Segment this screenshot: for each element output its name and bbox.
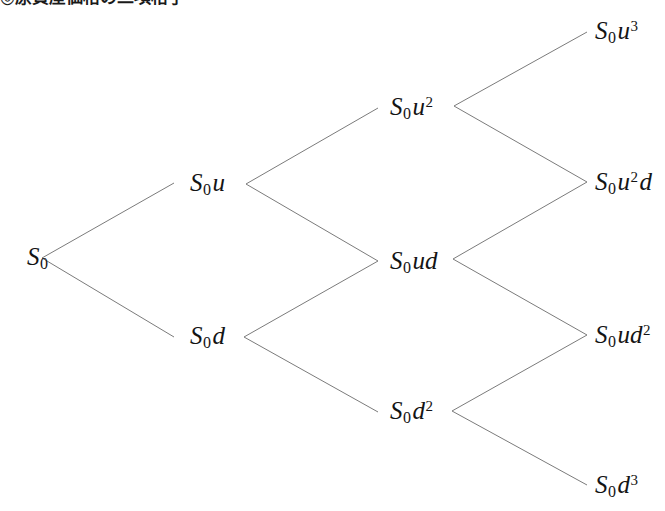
node-base-symbol: S <box>390 247 403 274</box>
lattice-edge-n1d-n2dd <box>244 337 378 412</box>
lattice-node-n0: S0 <box>27 244 48 272</box>
lattice-node-n1u: S0u <box>190 170 225 198</box>
lattice-node-n3uud: S0u2d <box>595 169 652 197</box>
lattice-edge-n0-n1u <box>42 183 174 258</box>
node-base-symbol: S <box>595 471 608 498</box>
node-factor: u <box>411 93 425 120</box>
lattice-node-n2ud: S0ud <box>390 248 438 276</box>
node-factor-tail: d <box>638 168 652 195</box>
lattice-edge-n2ud-n3uud <box>453 182 587 259</box>
node-exponent: 3 <box>630 18 638 34</box>
lattice-node-n3ddd: S0d3 <box>595 472 638 500</box>
node-subscript: 0 <box>608 180 617 197</box>
node-factor: d <box>211 322 225 349</box>
lattice-edge-n2uu-n3uuu <box>454 32 587 106</box>
node-subscript: 0 <box>403 259 412 276</box>
lattice-edge-n2dd-n3udd <box>452 335 587 411</box>
node-subscript: 0 <box>203 181 212 198</box>
node-subscript: 0 <box>403 409 412 426</box>
node-factor: ud <box>411 247 438 274</box>
node-subscript: 0 <box>608 483 617 500</box>
node-base-symbol: S <box>595 321 608 348</box>
node-subscript: 0 <box>203 334 212 351</box>
node-base-symbol: S <box>390 397 403 424</box>
lattice-node-n2uu: S0u2 <box>390 94 433 122</box>
lattice-node-n3udd: S0ud2 <box>595 322 651 350</box>
node-exponent: 2 <box>630 169 638 185</box>
node-exponent: 3 <box>630 472 638 488</box>
lattice-edge-n1u-n2ud <box>246 184 378 261</box>
node-exponent: 2 <box>425 94 433 110</box>
lattice-node-n3uuu: S0u3 <box>595 18 638 46</box>
node-subscript: 0 <box>608 333 617 350</box>
lattice-node-n1d: S0d <box>190 323 225 351</box>
node-subscript: 0 <box>608 29 617 46</box>
lattice-diagram-page: ◎原資産価格の二項格子 S0S0uS0dS0u2S0udS0d2S0u3S0u2… <box>0 0 665 511</box>
node-base-symbol: S <box>595 168 608 195</box>
lattice-edge-n2dd-n3ddd <box>452 411 587 485</box>
node-factor: u <box>211 169 225 196</box>
node-base-symbol: S <box>595 17 608 44</box>
lattice-edge-n0-n1d <box>42 258 174 337</box>
node-factor: d <box>616 471 630 498</box>
lattice-edge-n1u-n2uu <box>246 108 378 184</box>
node-factor: ud <box>616 321 643 348</box>
lattice-edge-n1d-n2ud <box>244 261 378 337</box>
node-exponent: 2 <box>425 398 433 414</box>
node-base-symbol: S <box>390 93 403 120</box>
node-base-symbol: S <box>190 169 203 196</box>
lattice-edge-n2uu-n3uud <box>454 106 587 182</box>
node-subscript: 0 <box>403 105 412 122</box>
node-subscript: 0 <box>40 255 49 272</box>
lattice-edge-layer <box>0 0 665 511</box>
node-factor: u <box>616 17 630 44</box>
lattice-edge-n2ud-n3udd <box>453 259 587 335</box>
node-factor: d <box>411 397 425 424</box>
node-base-symbol: S <box>190 322 203 349</box>
node-exponent: 2 <box>643 322 651 338</box>
lattice-node-n2dd: S0d2 <box>390 398 433 426</box>
node-factor: u <box>616 168 630 195</box>
node-base-symbol: S <box>27 243 40 270</box>
